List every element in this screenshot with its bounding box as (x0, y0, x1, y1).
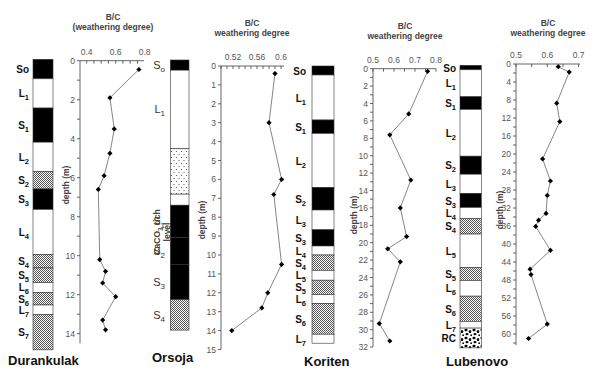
site-name: Orsoja (152, 350, 194, 365)
layer-s6 (33, 292, 53, 305)
layer-s3 (460, 194, 481, 208)
layer-l7 (33, 305, 53, 315)
x-tick-label: 0.52 (225, 52, 242, 62)
layer-l1 (170, 70, 189, 149)
y-tick-label: 10 (207, 250, 217, 260)
x-tick-label: 0.6 (110, 47, 122, 57)
bc-profile-line (98, 69, 139, 329)
y-tick-label: 44 (502, 257, 512, 267)
y-tick-label: 12 (502, 113, 512, 123)
layer-s2 (312, 188, 334, 211)
layer-s3 (33, 189, 53, 209)
layer-label: L1 (296, 93, 306, 107)
axes: 024681012140.40.60.8B/C(weathering degre… (61, 12, 154, 343)
layer-s7 (33, 315, 53, 350)
layer-l6 (460, 280, 481, 296)
data-point-marker (528, 272, 533, 277)
y-tick-label: 8 (211, 212, 216, 222)
x-tick-label: 0.6 (388, 55, 400, 65)
y-tick-label: 32 (359, 342, 369, 352)
y-tick-label: 0 (211, 61, 216, 71)
layer-label: S3 (153, 276, 165, 291)
depth-axis-label: depth (m) (349, 195, 359, 234)
y-tick-label: 60 (502, 329, 512, 339)
y-tick-label: 9 (211, 231, 216, 241)
y-tick-label: 30 (359, 325, 369, 335)
data-point-marker (387, 338, 392, 343)
layer-l1 (312, 75, 334, 120)
y-tick-label: 5 (211, 156, 216, 166)
depth-axis-label: depth (m) (495, 190, 505, 229)
y-tick-label: 12 (359, 168, 369, 178)
x-axis-title: B/C (106, 12, 121, 22)
figure-canvas: SoL1S1L2S2S3L4S4S5L6S6L7S7Durankulak0246… (0, 0, 600, 381)
stratigraphy-column: SoL1S1L2S2L3S3L4S4L5S5L6S6L7 (293, 66, 334, 348)
layer-label: So (293, 66, 306, 77)
y-tick-label: 10 (66, 251, 76, 261)
y-tick-label: 0 (363, 64, 368, 74)
layer-s1 (460, 97, 481, 110)
layer-label: S7 (18, 327, 29, 341)
x-tick-label: 0.4 (81, 47, 93, 57)
layer-s2 (33, 171, 53, 189)
caco3-level-label: CaCO3 richlevel (152, 209, 172, 254)
y-tick-label: 14 (66, 329, 76, 339)
panel-lubenovo: SoL1S1L2S2L3S3L4S4L5S5L6S6L7RCLubenovo04… (442, 18, 586, 369)
layer-l2 (312, 134, 334, 188)
y-tick-label: 24 (502, 167, 512, 177)
layer-label: L1 (446, 78, 456, 92)
data-point-marker (96, 187, 101, 192)
data-point-marker (103, 327, 108, 332)
x-axis-subtitle: (weathering degree) (73, 22, 154, 32)
y-tick-label: 28 (359, 307, 369, 317)
layer-l7 (460, 321, 481, 328)
y-tick-label: 0 (70, 56, 75, 66)
y-tick-label: 8 (506, 95, 511, 105)
layer-s5 (312, 280, 334, 294)
layer-s5 (33, 268, 53, 283)
layer-s2 (460, 156, 481, 174)
y-tick-label: 3 (211, 118, 216, 128)
layer-label: S2 (18, 175, 29, 189)
site-name: Durankulak (8, 353, 80, 368)
layer-label: S4 (153, 309, 165, 324)
y-tick-label: 2 (363, 81, 368, 91)
data-point-marker (548, 178, 553, 183)
y-tick-label: 20 (502, 149, 512, 159)
layer-l7 (312, 334, 334, 343)
layer-s4 (170, 300, 189, 331)
layer-s4 (460, 219, 481, 234)
layer-label: So (153, 59, 165, 74)
layer-rc (460, 328, 481, 348)
layer-s4 (312, 255, 334, 270)
x-tick-label: 0.56 (249, 52, 266, 62)
y-tick-label: 52 (502, 293, 512, 303)
layer-l3 (460, 174, 481, 193)
layer-s1 (312, 120, 334, 134)
stratigraphy-column: SoL1S1L2S2L3S3L4S4L5S5L6S6L7RC (442, 63, 482, 348)
layer-label: L2 (296, 156, 306, 170)
bc-profile-line (232, 74, 282, 331)
layer-l1 (460, 70, 481, 97)
y-tick-label: 2 (211, 99, 216, 109)
data-point-marker (102, 173, 107, 178)
layer-so (170, 60, 189, 70)
data-point-marker (100, 317, 105, 322)
layer-label: S4 (445, 221, 457, 235)
y-tick-label: 26 (359, 290, 369, 300)
data-point-marker (377, 321, 382, 326)
y-tick-label: 4 (506, 77, 511, 87)
x-tick-label: 0.8 (430, 55, 442, 65)
y-tick-label: 40 (502, 239, 512, 249)
x-tick-label: 0.7 (573, 50, 585, 60)
bc-profile-line (379, 71, 427, 341)
layer-l6 (33, 283, 53, 293)
y-tick-label: 16 (502, 131, 512, 141)
panel-durankulak: SoL1S1L2S2S3L4S4S5L6S6L7S7Durankulak0246… (8, 12, 154, 368)
axes: 01234567891011121314150.520.560.6B/Cweat… (197, 18, 290, 355)
layer-s3 (170, 264, 189, 299)
layer-label: S5 (445, 269, 456, 283)
y-tick-label: 14 (359, 186, 369, 196)
layer-label: So (443, 63, 456, 74)
layer-l4 (312, 246, 334, 255)
